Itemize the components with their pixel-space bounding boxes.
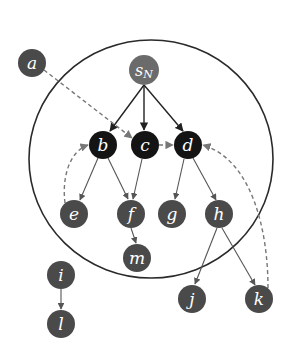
- node-k-label: k: [254, 289, 264, 309]
- edge-d-h: [193, 158, 216, 200]
- graph-diagram: sN a b c d e f g: [0, 0, 296, 356]
- node-m-label: m: [129, 248, 145, 268]
- edge-e-b: [64, 145, 88, 203]
- node-h[interactable]: h: [205, 200, 233, 228]
- edge-f-m: [131, 228, 136, 243]
- node-sn[interactable]: sN: [129, 55, 159, 85]
- edges: [44, 70, 268, 309]
- edge-c-f: [133, 159, 142, 199]
- node-d[interactable]: d: [174, 131, 202, 159]
- edge-h-k: [222, 228, 255, 285]
- node-l[interactable]: l: [47, 310, 75, 338]
- node-b[interactable]: b: [89, 131, 117, 159]
- node-b-label: b: [98, 135, 109, 155]
- node-i-label: i: [58, 265, 63, 285]
- node-g-label: g: [167, 204, 178, 224]
- node-i[interactable]: i: [47, 261, 75, 289]
- node-j[interactable]: j: [178, 285, 206, 313]
- node-c-label: c: [140, 135, 150, 155]
- edge-h-j: [195, 228, 217, 284]
- node-l-label: l: [58, 314, 63, 334]
- edge-sn-b: [110, 85, 144, 131]
- nodes: sN a b c d e f g: [18, 49, 273, 338]
- edge-b-e: [80, 158, 98, 200]
- node-h-label: h: [214, 204, 225, 224]
- edge-sn-d: [144, 85, 183, 131]
- node-f[interactable]: f: [117, 200, 145, 228]
- node-c[interactable]: c: [131, 131, 159, 159]
- node-k[interactable]: k: [245, 285, 273, 313]
- edge-a-c: [44, 70, 132, 138]
- edge-b-f: [108, 158, 128, 199]
- node-e-label: e: [69, 204, 79, 224]
- node-d-label: d: [183, 135, 194, 155]
- edge-d-g: [175, 159, 184, 199]
- node-e[interactable]: e: [60, 200, 88, 228]
- node-g[interactable]: g: [158, 200, 186, 228]
- node-sn-subscript: N: [142, 68, 153, 81]
- node-a[interactable]: a: [18, 49, 46, 77]
- node-sn-label: s: [135, 61, 143, 80]
- node-a-label: a: [27, 53, 37, 73]
- node-m[interactable]: m: [123, 244, 151, 272]
